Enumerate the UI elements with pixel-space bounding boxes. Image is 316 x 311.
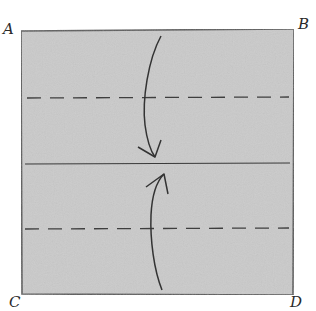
paper-square (21, 29, 294, 295)
corner-label-b: B (298, 17, 309, 32)
diagram-canvas (0, 0, 316, 311)
corner-label-a: A (3, 22, 14, 37)
corner-label-d: D (290, 295, 302, 310)
corner-label-c: C (9, 295, 20, 310)
folding-diagram: A B C D (0, 0, 316, 311)
